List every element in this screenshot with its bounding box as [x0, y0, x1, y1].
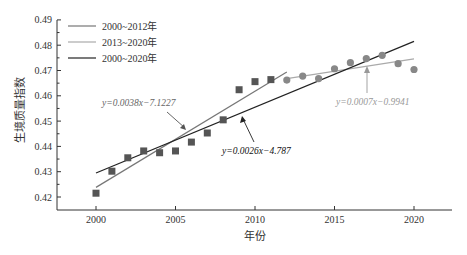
- x-tick-label: 2005: [166, 214, 186, 225]
- legend: 2000~2012年2013~2020年2000~2020年: [68, 20, 157, 64]
- y-axis-title: 生境质量指数: [13, 77, 26, 143]
- legend-label: 2000~2020年: [102, 52, 157, 64]
- data-point-square: [124, 154, 131, 161]
- y-tick-label: 0.49: [35, 14, 53, 25]
- trend-line: [96, 72, 287, 187]
- data-point-circle: [331, 65, 338, 72]
- y-tick-label: 0.42: [35, 192, 53, 203]
- annotation-arrow: [167, 112, 185, 128]
- x-tick-label: 2000: [86, 214, 106, 225]
- data-points: [93, 52, 418, 197]
- data-point-square: [252, 78, 259, 85]
- chart-canvas: 0.420.430.440.450.460.470.480.4920002005…: [0, 0, 467, 255]
- legend-label: 2000~2012年: [102, 20, 157, 32]
- data-point-square: [267, 76, 274, 83]
- equation-label: y=0.0007x−0.9941: [335, 97, 410, 107]
- y-tick-label: 0.43: [35, 166, 53, 177]
- x-tick-label: 2010: [245, 214, 265, 225]
- legend-label: 2013~2020年: [102, 36, 157, 48]
- data-point-circle: [315, 75, 322, 82]
- y-tick-label: 0.47: [35, 65, 53, 76]
- data-point-square: [140, 147, 147, 154]
- y-tick-label: 0.46: [35, 90, 53, 101]
- data-point-square: [220, 116, 227, 123]
- data-point-square: [93, 190, 100, 197]
- data-point-square: [188, 139, 195, 146]
- x-tick-label: 2020: [404, 214, 424, 225]
- x-axis-title: 年份: [244, 229, 266, 242]
- annotation-eq-2000-2020: y=0.0026x−4.787: [221, 116, 292, 156]
- y-tick-label: 0.44: [35, 141, 53, 152]
- y-tick-label: 0.45: [35, 116, 53, 127]
- equation-label: y=0.0038x−7.1227: [101, 98, 177, 108]
- data-point-circle: [379, 52, 386, 59]
- data-point-circle: [299, 72, 306, 79]
- data-point-circle: [363, 55, 370, 62]
- y-tick-label: 0.48: [35, 40, 53, 51]
- annotation-eq-2013-2020: y=0.0007x−0.9941: [335, 66, 410, 107]
- data-point-square: [108, 168, 115, 175]
- data-point-square: [236, 86, 243, 93]
- data-point-circle: [283, 77, 290, 84]
- annotation-arrow: [243, 119, 254, 142]
- data-point-square: [204, 129, 211, 136]
- equation-label: y=0.0026x−4.787: [221, 146, 292, 156]
- arrow-head-icon: [240, 116, 246, 123]
- x-tick-label: 2015: [325, 214, 345, 225]
- annotation-eq-2000-2012: y=0.0038x−7.1227: [101, 98, 186, 130]
- data-point-square: [156, 149, 163, 156]
- data-point-circle: [410, 66, 417, 73]
- data-point-circle: [347, 59, 354, 66]
- data-point-circle: [395, 60, 402, 67]
- data-point-square: [172, 147, 179, 154]
